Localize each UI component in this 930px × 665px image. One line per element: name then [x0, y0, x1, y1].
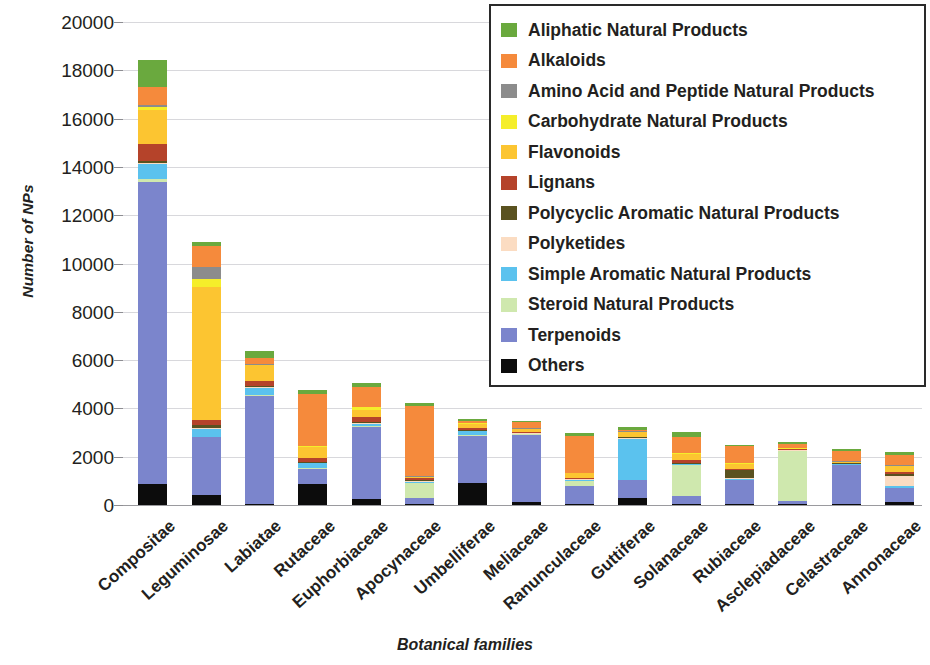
bar-segment [192, 267, 221, 279]
legend-swatch-icon [501, 84, 517, 98]
bar-group [192, 22, 221, 505]
bar-segment [245, 388, 274, 395]
bar-segment [192, 437, 221, 495]
bar-group [245, 22, 274, 505]
stacked-bar [618, 427, 647, 505]
bar-segment [885, 488, 914, 502]
bar-group [298, 22, 327, 505]
stacked-bar [565, 433, 594, 505]
y-axis-tick-label: 18000 [22, 61, 114, 80]
stacked-bar [192, 242, 221, 505]
bar-segment [192, 429, 221, 437]
bar-segment [405, 483, 434, 498]
bar-segment [885, 455, 914, 465]
bar-segment [565, 486, 594, 504]
legend-item[interactable]: Others [501, 351, 924, 382]
legend-item[interactable]: Carbohydrate Natural Products [501, 107, 924, 138]
legend-swatch-icon [501, 298, 517, 312]
stacked-bar-chart: Number of NPs 20000180001600014000120001… [0, 0, 930, 665]
bar-segment [298, 469, 327, 485]
legend-label: Polyketides [528, 235, 625, 253]
legend: Aliphatic Natural ProductsAlkaloidsAmino… [489, 4, 926, 387]
stacked-bar [458, 419, 487, 505]
legend-label: Aliphatic Natural Products [528, 22, 748, 40]
stacked-bar [245, 351, 274, 505]
legend-swatch-icon [501, 237, 517, 251]
bar-segment [192, 279, 221, 287]
bar-segment [725, 480, 754, 503]
bar-group [138, 22, 167, 505]
legend-item[interactable]: Polycyclic Aromatic Natural Products [501, 198, 924, 229]
stacked-bar [672, 432, 701, 505]
stacked-bar [138, 60, 167, 505]
stacked-bar [298, 390, 327, 505]
bar-segment [298, 447, 327, 458]
legend-swatch-icon [501, 176, 517, 190]
legend-swatch-icon [501, 145, 517, 159]
bar-group [458, 22, 487, 505]
y-axis-tick-label: 16000 [22, 109, 114, 128]
bar-segment [138, 87, 167, 105]
y-axis-tick-label: 20000 [22, 13, 114, 32]
y-axis-tick-label: 10000 [22, 254, 114, 273]
stacked-bar [778, 442, 807, 505]
legend-label: Carbohydrate Natural Products [528, 113, 788, 131]
legend-label: Simple Aromatic Natural Products [528, 266, 811, 284]
legend-label: Steroid Natural Products [528, 296, 734, 314]
bar-segment [672, 437, 701, 453]
legend-swatch-icon [501, 359, 517, 373]
legend-item[interactable]: Simple Aromatic Natural Products [501, 259, 924, 290]
bar-segment [138, 60, 167, 87]
legend-item[interactable]: Lignans [501, 168, 924, 199]
bar-group [405, 22, 434, 505]
legend-item[interactable]: Terpenoids [501, 320, 924, 351]
legend-item[interactable]: Flavonoids [501, 137, 924, 168]
bar-segment [458, 483, 487, 505]
bar-segment [192, 287, 221, 421]
bar-segment [618, 439, 647, 480]
legend-swatch-icon [501, 328, 517, 342]
legend-swatch-icon [501, 206, 517, 220]
y-axis-tick-label: 4000 [22, 399, 114, 418]
bar-segment [778, 451, 807, 501]
legend-label: Others [528, 357, 584, 375]
legend-swatch-icon [501, 54, 517, 68]
bar-group [352, 22, 381, 505]
bar-segment [298, 484, 327, 505]
bar-segment [138, 144, 167, 161]
legend-label: Lignans [528, 174, 595, 192]
legend-label: Polycyclic Aromatic Natural Products [528, 205, 840, 223]
bar-segment [138, 110, 167, 145]
y-axis-tick-label: 0 [22, 496, 114, 515]
bar-segment [405, 406, 434, 476]
bar-segment [565, 436, 594, 472]
legend-label: Alkaloids [528, 52, 606, 70]
bar-segment [352, 410, 381, 418]
bar-segment [352, 387, 381, 407]
bar-segment [618, 480, 647, 497]
legend-item[interactable]: Steroid Natural Products [501, 290, 924, 321]
y-axis-tick-label: 12000 [22, 206, 114, 225]
y-axis-tick-labels: 2000018000160001400012000100008000600040… [22, 0, 114, 665]
legend-item[interactable]: Aliphatic Natural Products [501, 15, 924, 46]
legend-item[interactable]: Alkaloids [501, 46, 924, 77]
stacked-bar [725, 445, 754, 506]
x-axis-title: Botanical families [0, 636, 930, 654]
bar-segment [245, 396, 274, 503]
bar-segment [832, 465, 861, 504]
bar-segment [725, 446, 754, 463]
stacked-bar [832, 449, 861, 505]
bar-segment [725, 470, 754, 478]
bar-segment [138, 484, 167, 505]
legend-item[interactable]: Polyketides [501, 229, 924, 260]
bar-segment [672, 465, 701, 496]
legend-label: Terpenoids [528, 327, 621, 345]
bar-segment [245, 365, 274, 380]
legend-swatch-icon [501, 267, 517, 281]
bar-segment [352, 427, 381, 499]
stacked-bar [405, 403, 434, 505]
y-axis-tick-label: 14000 [22, 157, 114, 176]
bar-segment [138, 164, 167, 179]
bar-segment [138, 182, 167, 484]
legend-item[interactable]: Amino Acid and Peptide Natural Products [501, 76, 924, 107]
